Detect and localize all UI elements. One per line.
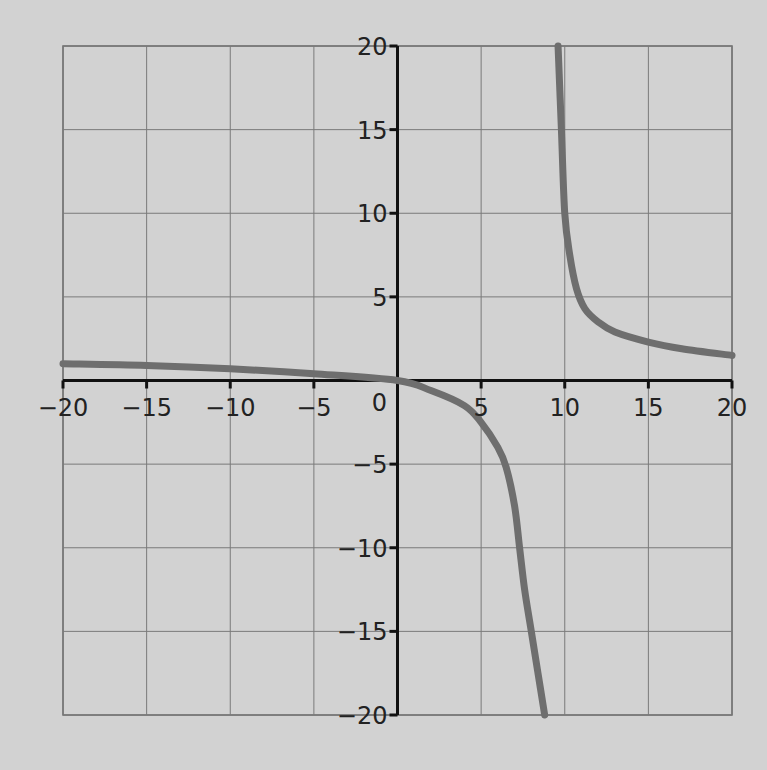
- x-tick-label: −15: [121, 394, 172, 422]
- y-tick-label: −5: [352, 451, 387, 479]
- x-tick-label: −20: [38, 394, 89, 422]
- function-graph: −20−15−10−551015200 2015105−5−10−15−20: [0, 0, 767, 770]
- y-tick-label: 10: [357, 200, 388, 228]
- y-tick-label: −10: [337, 535, 388, 563]
- x-tick-label: 20: [717, 394, 748, 422]
- y-tick-label: 15: [357, 117, 388, 145]
- cropped-header-text: [0, 0, 767, 6]
- x-tick-label: 10: [549, 394, 580, 422]
- x-tick-label: 15: [633, 394, 664, 422]
- y-tick-label: −15: [337, 618, 388, 646]
- y-tick-label: 5: [372, 284, 387, 312]
- x-axis-tick-labels: −20−15−10−551015200: [38, 389, 748, 422]
- x-tick-label: −10: [205, 394, 256, 422]
- page: −20−15−10−551015200 2015105−5−10−15−20: [0, 0, 767, 770]
- x-tick-label: 5: [473, 394, 488, 422]
- x-tick-label: −5: [296, 394, 331, 422]
- origin-label: 0: [372, 389, 387, 417]
- y-tick-label: −20: [337, 702, 388, 730]
- curve-branch-right: [558, 46, 732, 355]
- y-tick-label: 20: [357, 33, 388, 61]
